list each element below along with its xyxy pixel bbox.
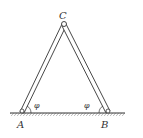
label-angle-a: φ [34, 101, 40, 110]
angle-arc-a [27, 106, 31, 113]
rod-bc [62, 24, 110, 113]
label-angle-b: φ [84, 101, 90, 110]
angle-arc-b [99, 106, 103, 113]
label-b: B [100, 119, 108, 130]
diagram-canvas: C A B φ φ [0, 0, 143, 138]
end-a [20, 109, 24, 113]
ground [10, 113, 125, 116]
label-a: A [16, 119, 24, 130]
label-c: C [59, 10, 67, 21]
hinge-c [62, 22, 67, 27]
end-b [106, 109, 110, 113]
rod-ac [20, 24, 66, 113]
